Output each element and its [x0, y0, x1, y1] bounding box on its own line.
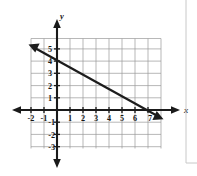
y-tick-label: -3 [48, 143, 55, 152]
x-axis-arrow-right [171, 106, 180, 114]
y-tick-label: -1 [48, 118, 55, 127]
x-tick-label: -1 [41, 114, 48, 123]
line-arrow-end [152, 111, 163, 120]
line-arrow-start [29, 44, 40, 53]
y-axis-arrow-down [53, 159, 61, 168]
page-edge-artifact [186, 0, 197, 163]
x-tick-labels: -2 -1 1 2 3 4 5 6 7 [28, 114, 152, 123]
y-tick-label: 2 [48, 82, 52, 91]
x-tick-label: 1 [68, 114, 72, 123]
x-tick-label: -2 [28, 114, 35, 123]
y-tick-label: 5 [48, 45, 52, 54]
x-tick-label: 5 [120, 114, 124, 123]
x-tick-label: 6 [133, 114, 137, 123]
y-tick-label: -2 [48, 131, 55, 140]
graph-svg: -2 -1 1 2 3 4 5 6 7 5 4 3 2 1 -1 -2 -3 x… [0, 0, 197, 176]
x-tick-label: 2 [81, 114, 85, 123]
y-tick-label: 1 [48, 94, 52, 103]
y-axis-name-label: y [59, 11, 64, 21]
x-tick-label: 7 [148, 114, 152, 123]
x-tick-label: 4 [107, 114, 111, 123]
x-tick-label: 3 [94, 114, 98, 123]
x-axis-arrow-left [12, 106, 21, 114]
coordinate-graph-figure: -2 -1 1 2 3 4 5 6 7 5 4 3 2 1 -1 -2 -3 x… [0, 0, 197, 176]
y-tick-label: 3 [48, 69, 52, 78]
y-tick-label: 4 [48, 57, 52, 66]
